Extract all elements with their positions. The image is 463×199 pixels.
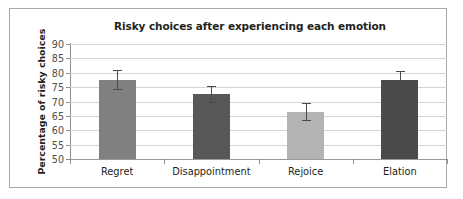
bar [99,80,136,159]
gridline [70,58,447,59]
y-tick-mark [66,130,70,131]
category-separator [70,159,71,164]
error-bar [306,103,307,120]
y-tick-label: 85 [42,53,64,64]
error-cap-lower [302,120,311,121]
category-separator [259,159,260,164]
x-tick-label: Rejoice [288,166,323,177]
category-separator [164,159,165,164]
error-cap-upper [302,103,311,104]
error-bar [211,86,212,102]
x-tick-label: Disappointment [172,166,250,177]
bar [381,80,418,159]
gridline [70,73,447,74]
x-tick-label: Elation [383,166,417,177]
y-tick-label: 60 [42,125,64,136]
y-tick-mark [66,116,70,117]
y-tick-mark [66,44,70,45]
y-tick-mark [66,102,70,103]
error-bar [117,70,118,88]
plot-area: 908580757065605550 RegretDisappointmentR… [70,44,447,159]
x-tick-label: Regret [101,166,133,177]
error-cap-upper [207,86,216,87]
chart-title: Risky choices after experiencing each em… [70,20,430,32]
chart-figure: Risky choices after experiencing each em… [9,8,447,188]
y-tick-label: 50 [42,154,64,165]
y-tick-label: 55 [42,139,64,150]
y-tick-label: 80 [42,67,64,78]
error-cap-lower [396,89,405,90]
error-cap-lower [113,89,122,90]
error-bar [400,71,401,88]
gridline [70,44,447,45]
error-cap-upper [396,71,405,72]
y-tick-mark [66,87,70,88]
category-separator [353,159,354,164]
y-tick-label: 75 [42,82,64,93]
y-tick-mark [66,145,70,146]
category-separator [447,159,448,164]
bar [193,94,230,159]
y-tick-mark [66,73,70,74]
y-tick-mark [66,58,70,59]
error-cap-lower [207,102,216,103]
y-tick-label: 65 [42,110,64,121]
y-tick-label: 90 [42,39,64,50]
error-cap-upper [113,70,122,71]
y-tick-label: 70 [42,96,64,107]
